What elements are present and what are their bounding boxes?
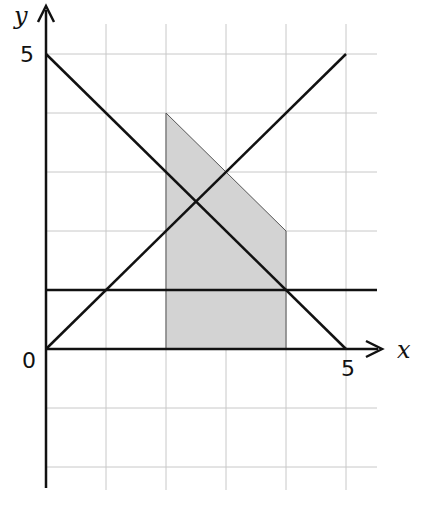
origin-label: 0 — [22, 348, 36, 373]
y-tick-5: 5 — [20, 42, 34, 67]
y-axis-label: y — [13, 2, 28, 30]
x-axis-label: x — [397, 336, 411, 364]
x-tick-5: 5 — [341, 356, 355, 381]
graph: y 5 0 5 x — [0, 0, 436, 515]
